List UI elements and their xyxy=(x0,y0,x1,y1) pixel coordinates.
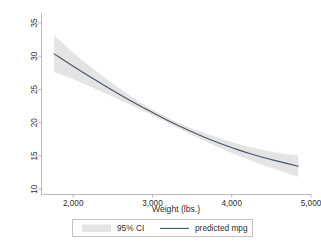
y-tick-label: 15 xyxy=(31,151,40,161)
chart-legend: 95% CI predicted mpg xyxy=(73,220,253,237)
chart-figure: 101520253035 2,0003,0004,0005,000 Weight… xyxy=(0,0,321,248)
x-tick-label: 5,000 xyxy=(301,199,321,208)
x-tick-label: 4,000 xyxy=(221,199,242,208)
y-tick-label: 10 xyxy=(31,184,40,194)
y-tick-label: 25 xyxy=(31,84,40,94)
x-axis-title: Weight (lbs.) xyxy=(152,204,200,214)
legend-label-ci: 95% CI xyxy=(117,223,144,233)
legend-label-predicted: predicted mpg xyxy=(195,223,248,233)
y-tick-label: 20 xyxy=(31,118,40,128)
y-tick-label: 30 xyxy=(31,51,40,61)
y-tick-label: 35 xyxy=(31,18,40,28)
x-tick-label: 2,000 xyxy=(63,199,84,208)
regression-plot: 101520253035 2,0003,0004,0005,000 Weight… xyxy=(0,0,321,248)
legend-swatch-ci xyxy=(82,225,111,233)
